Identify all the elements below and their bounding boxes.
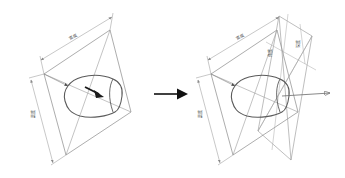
technical-drawing: 宽度 高度 — [0, 0, 345, 178]
right-depth-label: 深度 — [295, 40, 301, 48]
right-height-label: 高度 — [197, 110, 203, 118]
right-tilt-label: 角度 — [267, 49, 273, 57]
left-height-label: 高度 — [30, 110, 36, 118]
figure-canvas: 宽度 高度 — [0, 0, 345, 178]
background — [0, 0, 345, 178]
